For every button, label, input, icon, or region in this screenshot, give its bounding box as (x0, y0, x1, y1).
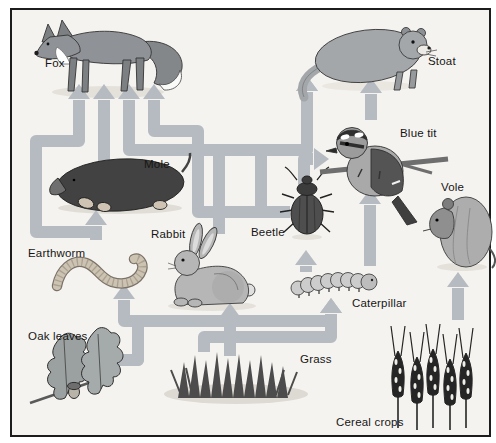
label-mole: Mole (144, 158, 170, 170)
label-beetle: Beetle (251, 226, 285, 238)
vole-illustration (423, 197, 495, 268)
arrow-grass-to-rabbit (219, 303, 241, 356)
beetle-illustration (280, 167, 334, 234)
arrow-caterpillar-to-beetle (295, 250, 317, 272)
label-earthworm: Earthworm (28, 247, 85, 259)
label-blue-tit: Blue tit (400, 127, 437, 139)
arrow-cereal-crops-to-vole (447, 272, 469, 320)
diagram-canvas (0, 0, 496, 443)
label-oak-leaves: Oak leaves (28, 330, 88, 342)
label-rabbit: Rabbit (151, 228, 185, 240)
grass-illustration (171, 352, 297, 398)
blue-tit-illustration (320, 128, 448, 226)
food-web-diagram: Fox Stoat Mole Blue tit Vole Earthworm R… (0, 0, 496, 443)
arrow-mole-to-fox (93, 84, 115, 162)
caterpillar-illustration (291, 273, 377, 299)
cereal-crops-illustration (391, 324, 473, 430)
earthworm-illustration (57, 259, 142, 286)
label-fox: Fox (45, 57, 65, 69)
label-grass: Grass (300, 353, 332, 365)
label-caterpillar: Caterpillar (352, 297, 407, 309)
label-cereal-crops: Cereal crops (336, 416, 404, 428)
fox-illustration (34, 20, 182, 92)
label-stoat: Stoat (428, 55, 456, 67)
label-vole: Vole (441, 181, 464, 193)
arrow-caterpillar-to-blue-tit (359, 189, 381, 266)
